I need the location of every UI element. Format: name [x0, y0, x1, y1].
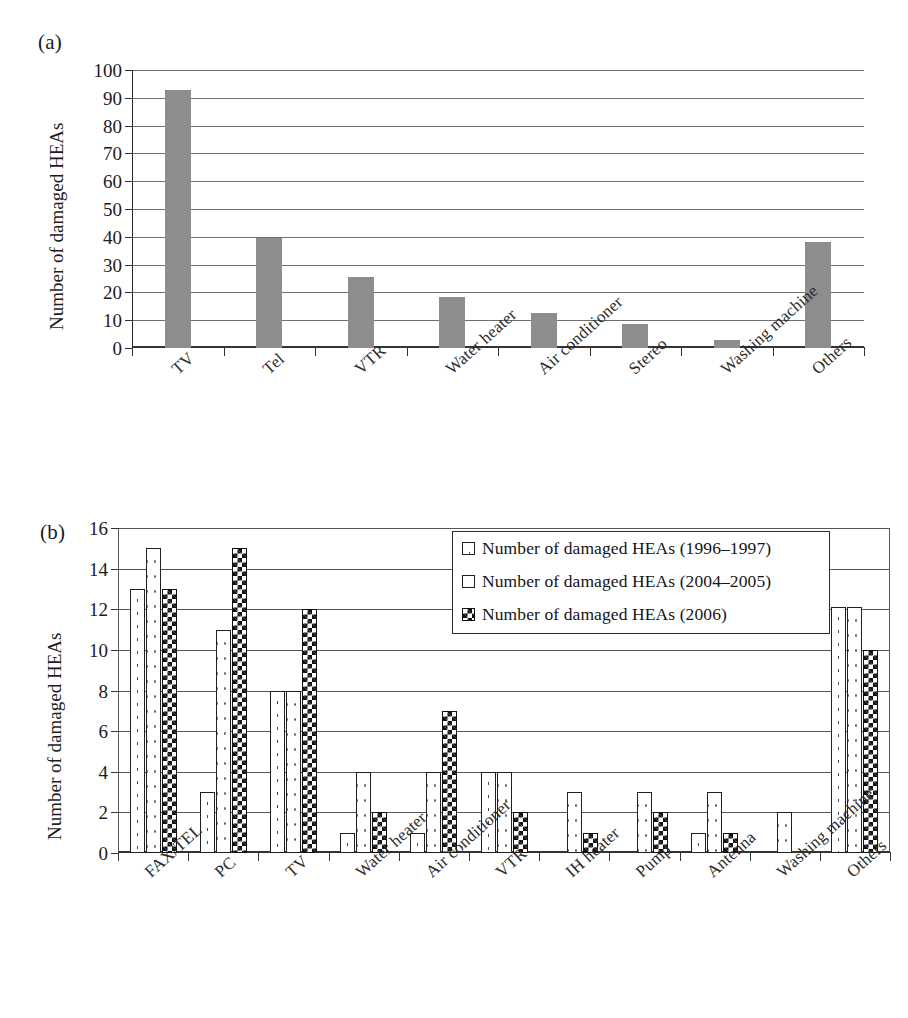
panel-b-bar [200, 792, 215, 853]
panel-b-x-tickmark [750, 852, 751, 861]
panel-a-gridline [132, 181, 864, 182]
panel-a-gridline [132, 70, 864, 71]
panel-a-gridline [132, 209, 864, 210]
legend-swatch-dots-light [462, 575, 475, 588]
panel-a-bar [256, 238, 282, 348]
panel-a-x-tickmark [224, 347, 225, 356]
panel-b-legend: Number of damaged HEAs (1996–1997)Number… [452, 531, 830, 634]
panel-b-bar [863, 650, 878, 853]
panel-a-xtick-label: Tel [259, 349, 289, 379]
legend-row: Number of damaged HEAs (2004–2005) [453, 565, 829, 598]
panel-a-ytick-label: 10 [60, 311, 122, 330]
panel-a-bar [622, 324, 648, 348]
panel-a-ytick-label: 60 [60, 172, 122, 191]
panel-a-ytick-label: 70 [60, 144, 122, 163]
panel-b-bar [146, 548, 161, 853]
panel-a-x-tickmark [864, 347, 865, 356]
panel-b-y-tickmark [111, 691, 119, 692]
panel-a-bar [348, 277, 374, 348]
panel-b-y-tickmark [111, 609, 119, 610]
panel-a-x-tickmark [132, 347, 133, 356]
chart-panel-a: (a) Number of damaged HEAs 0102030405060… [0, 0, 908, 480]
panel-a-gridline [132, 153, 864, 154]
panel-b-y-tickmark [111, 569, 119, 570]
panel-b-bar [637, 792, 652, 853]
panel-b-x-tickmark [258, 852, 259, 861]
panel-a-y-tickmark [125, 292, 133, 293]
panel-a-gridline [132, 292, 864, 293]
legend-label: Number of damaged HEAs (1996–1997) [482, 538, 771, 559]
panel-a-gridline [132, 98, 864, 99]
panel-a-ytick-label: 0 [60, 339, 122, 358]
panel-a-y-tickmark [125, 153, 133, 154]
chart-panel-b: (b) Number of damaged HEAs 0246810121416… [0, 480, 908, 1018]
panel-b-bar [270, 691, 285, 854]
panel-b-bar [442, 711, 457, 853]
panel-a-ytick-label: 40 [60, 227, 122, 246]
panel-b-ytick-label: 0 [46, 844, 108, 863]
panel-a-x-tickmark [590, 347, 591, 356]
panel-b-ytick-label: 12 [46, 600, 108, 619]
panel-a-x-tickmark [407, 347, 408, 356]
panel-b-bar [567, 792, 582, 853]
panel-a-ytick-label: 80 [60, 116, 122, 135]
panel-b-ytick-label: 6 [46, 722, 108, 741]
panel-b-y-tickmark [111, 812, 119, 813]
panel-b-y-tickmark [111, 772, 119, 773]
legend-label: Number of damaged HEAs (2006) [482, 604, 727, 625]
panel-b-x-tickmark [118, 852, 119, 861]
panel-b-bar [691, 833, 706, 853]
panel-b-bar [130, 589, 145, 853]
panel-b-bar [356, 772, 371, 853]
panel-b-bar [302, 609, 317, 853]
panel-b-x-tickmark [188, 852, 189, 861]
panel-b-y-tickmark [111, 650, 119, 651]
panel-b-y-tickmark [111, 528, 119, 529]
panel-a-y-tickmark [125, 126, 133, 127]
panel-b-xtick-label: PC [211, 853, 240, 882]
legend-label: Number of damaged HEAs (2004–2005) [482, 571, 771, 592]
panel-b-x-tickmark [890, 852, 891, 861]
panel-a-ytick-label: 50 [60, 200, 122, 219]
panel-b-x-tickmark [680, 852, 681, 861]
panel-a-gridline [132, 265, 864, 266]
panel-b-bar [286, 691, 301, 854]
panel-a-y-tickmark [125, 320, 133, 321]
panel-b-bar [340, 833, 355, 853]
panel-a-bar [531, 313, 557, 348]
panel-a-ytick-label: 20 [60, 283, 122, 302]
panel-b-x-tickmark [820, 852, 821, 861]
panel-b-bar [232, 548, 247, 853]
panel-a-y-tickmark [125, 181, 133, 182]
panel-a-y-tickmark [125, 265, 133, 266]
panel-b-bar [162, 589, 177, 853]
panel-a-y-tickmark [125, 98, 133, 99]
panel-a-ytick-label: 100 [60, 61, 122, 80]
panel-a-letter: (a) [38, 30, 62, 55]
panel-b-xtick-label: TV [282, 852, 313, 882]
panel-a-x-tickmark [681, 347, 682, 356]
panel-a-y-tickmark [125, 237, 133, 238]
panel-b-y-tickmark [111, 731, 119, 732]
legend-row: Number of damaged HEAs (1996–1997) [453, 532, 829, 565]
panel-a-gridline [132, 126, 864, 127]
panel-b-x-tickmark [469, 852, 470, 861]
legend-swatch-dots [462, 542, 475, 555]
panel-a-y-tickmark [125, 70, 133, 71]
panel-a-x-tickmark [498, 347, 499, 356]
panel-b-x-tickmark [399, 852, 400, 861]
panel-b-ytick-label: 14 [46, 559, 108, 578]
panel-a-gridline [132, 237, 864, 238]
panel-a-ytick-label: 90 [60, 88, 122, 107]
panel-a-x-tickmark [315, 347, 316, 356]
panel-a-y-tickmark [125, 209, 133, 210]
panel-b-ytick-label: 16 [46, 519, 108, 538]
legend-swatch-check [462, 608, 475, 621]
panel-b-ytick-label: 4 [46, 762, 108, 781]
panel-b-bar [216, 630, 231, 853]
panel-b-ytick-label: 2 [46, 803, 108, 822]
panel-a-xtick-label: TV [168, 349, 199, 379]
panel-b-bar [777, 812, 792, 853]
panel-a-ytick-label: 30 [60, 255, 122, 274]
legend-row: Number of damaged HEAs (2006) [453, 598, 829, 631]
